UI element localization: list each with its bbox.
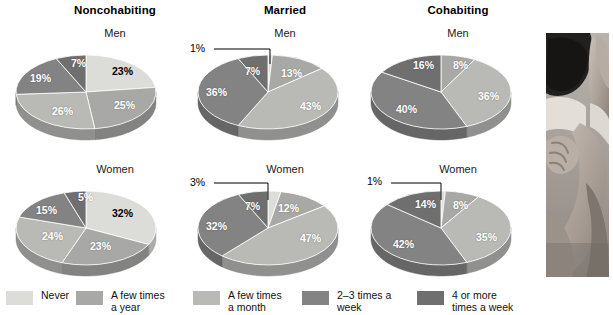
pie-svg-noncohabiting-men: [8, 46, 183, 146]
legend-item-2-3-times-a-week: 2–3 times a week: [302, 290, 391, 313]
legend-swatch-a-few-times-a-month: [193, 291, 220, 305]
callout-label-never: 1%: [190, 42, 205, 54]
callout-leader-line-never: [212, 176, 282, 202]
column-title-married: Married: [205, 4, 365, 16]
pie-chart-married-men: 1% 13% 43% 36% 7%: [190, 46, 365, 146]
pie-slice-top: [86, 55, 155, 92]
pie-chart-cohabiting-women: 1% 8% 35% 42% 14%: [363, 182, 538, 282]
legend-item-a-few-times-a-month: A few times a month: [193, 290, 282, 313]
legend-label-never: Never: [41, 290, 69, 302]
subtitle-cohabiting-men: Men: [378, 27, 538, 39]
legend-label-2-3-times-a-week: 2–3 times a week: [337, 290, 391, 313]
pie-chart-noncohabiting-men: 23% 25% 26% 19% 7%: [8, 46, 183, 146]
legend-swatch-a-few-times-a-year: [76, 291, 103, 305]
couple-embracing-photo: [546, 33, 609, 277]
column-title-noncohabiting: Noncohabiting: [35, 4, 195, 16]
legend-swatch-2-3-times-a-week: [302, 291, 329, 305]
pie-chart-noncohabiting-women: 32% 23% 24% 15% 5%: [8, 182, 183, 282]
column-title-cohabiting: Cohabiting: [378, 4, 538, 16]
subtitle-noncohabiting-women: Women: [35, 163, 195, 175]
subtitle-cohabiting-women: Women: [378, 163, 538, 175]
callout-label-never: 3%: [190, 176, 205, 188]
pie-svg-noncohabiting-women: [8, 182, 183, 282]
subtitle-married-women: Women: [205, 163, 365, 175]
legend-item-4-or-more-times-a-week: 4 or more times a week: [417, 290, 513, 313]
legend-label-4-or-more-times-a-week: 4 or more times a week: [452, 290, 513, 313]
legend-swatch-4-or-more-times-a-week: [417, 291, 444, 305]
subtitle-married-men: Men: [205, 27, 365, 39]
callout-leader-line-never: [212, 42, 282, 66]
pie-svg-cohabiting-men: [363, 46, 538, 146]
legend-item-never: Never: [6, 290, 69, 305]
legend-swatch-never: [6, 291, 33, 305]
legend-label-a-few-times-a-year: A few times a year: [111, 290, 165, 313]
legend-label-a-few-times-a-month: A few times a month: [228, 290, 282, 313]
photo-artwork: [546, 33, 609, 277]
callout-leader-line-never: [389, 176, 453, 202]
legend: Never A few times a year A few times a m…: [0, 286, 613, 315]
figure-canvas: Noncohabiting Married Cohabiting Men Men…: [0, 0, 613, 315]
pie-chart-cohabiting-men: 8% 36% 40% 16%: [363, 46, 538, 146]
legend-item-a-few-times-a-year: A few times a year: [76, 290, 165, 313]
subtitle-noncohabiting-men: Men: [35, 27, 195, 39]
callout-label-never: 1%: [367, 175, 382, 187]
pie-chart-married-women: 3% 12% 47% 32% 7%: [190, 182, 365, 282]
